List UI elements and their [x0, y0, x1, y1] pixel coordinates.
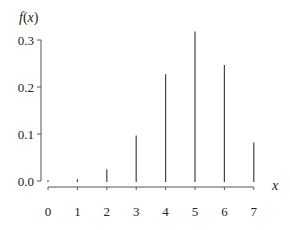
y-axis: 0.00.10.20.3 — [18, 33, 41, 189]
x-tick-label: 5 — [192, 204, 199, 219]
data-sticks — [48, 32, 254, 182]
y-tick-label: 0.2 — [18, 80, 34, 95]
x-tick-label: 1 — [74, 204, 81, 219]
x-tick-label: 2 — [104, 204, 111, 219]
x-tick-label: 0 — [45, 204, 52, 219]
y-tick-label: 0.0 — [18, 174, 34, 189]
y-tick-label: 0.1 — [18, 127, 34, 142]
y-axis-title: f(x) — [19, 10, 39, 26]
x-tick-label: 3 — [133, 204, 140, 219]
x-tick-label: 4 — [162, 204, 169, 219]
pmf-stick-chart: 0.00.10.20.3 01234567 f(x) x — [0, 0, 290, 230]
y-tick-label: 0.3 — [18, 33, 34, 48]
x-tick-label: 6 — [221, 204, 228, 219]
x-axis-title: x — [271, 178, 279, 193]
x-axis: 01234567 — [45, 187, 258, 219]
x-tick-label: 7 — [251, 204, 258, 219]
